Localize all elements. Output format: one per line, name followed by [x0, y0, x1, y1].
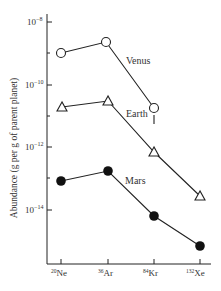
y-tick-label: 10−12: [25, 141, 43, 152]
x-tick-label-ne: 20Ne: [51, 268, 67, 278]
y-tick-label: 10−8: [27, 16, 42, 27]
y-tick-label: 10−14: [25, 204, 43, 215]
venus-point-ar: [102, 38, 111, 47]
mars-label: Mars: [125, 175, 146, 186]
x-tick-label-kr: 84Kr: [143, 268, 158, 278]
x-tick-label-xe: 132Xe: [186, 268, 205, 278]
venus-label: Venus: [126, 55, 151, 66]
y-tick-label: 10−10: [25, 79, 43, 90]
mars-point-kr: [149, 211, 159, 221]
mars-point-ar: [103, 166, 113, 176]
venus-point-kr: [150, 104, 159, 113]
venus-point-ne: [57, 49, 66, 58]
y-axis-title: Abundance (g per g of parent planet): [9, 78, 20, 218]
earth-point-ar: [103, 96, 113, 105]
abundance-chart: 10−8 10−10 10−12 10−14 Abundance (g per …: [0, 0, 221, 291]
mars-point-ne: [56, 176, 66, 186]
x-tick-label-ar: 36Ar: [98, 268, 113, 278]
earth-label: Earth: [126, 108, 148, 119]
mars-point-xe: [195, 241, 205, 251]
